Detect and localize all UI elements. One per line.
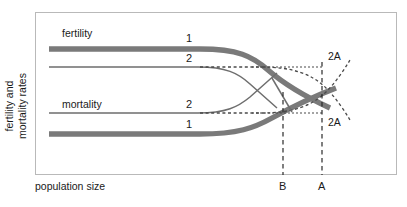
curve-label-fertility-2: 2 (186, 53, 192, 64)
curve-label-fertility-1: 1 (186, 33, 192, 44)
series-label-mortality: mortality (62, 99, 102, 110)
curve-mortality-1 (49, 88, 336, 134)
x-tick-label-a: A (318, 181, 325, 192)
y-axis-title: fertility and mortality rates (3, 51, 31, 161)
x-axis-title: population size (35, 181, 105, 192)
branch-label-mortality-2a: 2A (328, 117, 341, 128)
y-axis-title-line2: mortality rates (16, 51, 29, 161)
series-label-fertility: fertility (62, 28, 92, 39)
branch-label-fertility-2a: 2A (328, 51, 341, 62)
y-axis-title-line1: fertility and (3, 51, 16, 161)
curve-label-mortality-2: 2 (186, 99, 192, 110)
curve-label-mortality-1: 1 (186, 119, 192, 130)
figure-container: fertility mortality 1 2 2 1 2A 2A B A po… (0, 0, 407, 207)
x-tick-label-b: B (279, 181, 286, 192)
